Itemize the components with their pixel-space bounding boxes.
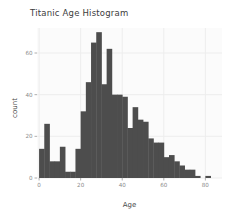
histogram-bar: [153, 143, 159, 178]
histogram-bar: [75, 149, 81, 178]
y-tick-label: 40: [25, 92, 33, 98]
histogram-bar: [60, 147, 66, 178]
x-tick-label: 80: [202, 182, 210, 188]
histogram-bar: [44, 124, 50, 178]
histogram-bar: [107, 49, 113, 178]
x-tick-label: 40: [119, 182, 127, 188]
x-tick-label: 0: [37, 182, 41, 188]
histogram-bar: [39, 149, 45, 178]
x-tick-label: 20: [77, 182, 85, 188]
y-axis-label: count: [11, 98, 19, 118]
histogram-bar: [86, 82, 92, 178]
histogram-bar: [122, 97, 128, 178]
histogram-bar: [190, 170, 196, 178]
y-tick-label: 60: [25, 50, 33, 56]
x-tick-label: 60: [160, 182, 168, 188]
histogram-bar: [65, 172, 71, 178]
y-tick-label: 20: [25, 133, 33, 139]
histogram-bar: [205, 176, 211, 178]
histogram-bar: [81, 111, 87, 178]
chart-figure: Titanic Age Histogram 020406080 0204060 …: [0, 0, 233, 221]
histogram-bar: [49, 161, 55, 178]
y-axis-ticks: 0204060: [25, 50, 37, 181]
histogram-bar: [148, 138, 154, 178]
histogram-bar: [55, 161, 61, 178]
x-axis-ticks: 020406080: [37, 178, 209, 188]
histogram-bar: [179, 166, 185, 179]
histogram-bar: [133, 107, 139, 178]
histogram-bar: [185, 170, 191, 178]
histogram-bar: [127, 128, 133, 178]
histogram-bar: [112, 95, 118, 178]
histogram-plot: 020406080 0204060 Age count: [0, 0, 233, 221]
histogram-bar: [164, 157, 170, 178]
histogram-bar: [91, 43, 97, 178]
histogram-bar: [96, 32, 102, 178]
histogram-bar: [174, 161, 180, 178]
histogram-bar: [143, 122, 149, 178]
y-tick-label: 0: [29, 175, 33, 181]
histogram-bar: [117, 95, 123, 178]
x-axis-label: Age: [123, 201, 137, 209]
histogram-bar: [195, 176, 201, 178]
histogram-bar: [138, 120, 144, 178]
histogram-bar: [101, 84, 107, 178]
histogram-bar: [159, 143, 165, 178]
histogram-bar: [70, 172, 76, 178]
histogram-bar: [169, 155, 175, 178]
